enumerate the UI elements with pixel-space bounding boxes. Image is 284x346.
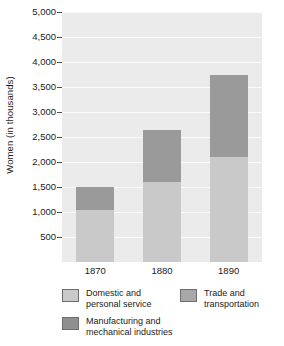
x-axis-tick-label: 1880 <box>132 265 192 277</box>
legend-item[interactable]: Domestic and personal service <box>62 288 152 309</box>
x-axis-tick-label: 1890 <box>199 265 259 277</box>
stacked-bar-chart: Women (in thousands) 5,0004,5004,0003,50… <box>0 0 284 346</box>
chart-legend: Domestic and personal serviceTrade and t… <box>62 288 280 344</box>
bar-1890[interactable] <box>210 75 248 263</box>
bar-segment[interactable] <box>143 130 181 183</box>
legend-label: Domestic and personal service <box>86 288 152 309</box>
y-axis-tick-label: 4,000 <box>18 57 56 67</box>
x-axis-tick-label: 1870 <box>65 265 125 277</box>
y-axis-tick-label: 1,000 <box>18 207 56 217</box>
bar-1880[interactable] <box>143 130 181 263</box>
y-axis-title: Women (in thousands) <box>0 0 18 250</box>
bar-segment[interactable] <box>76 187 114 210</box>
bar-segment[interactable] <box>143 182 181 262</box>
legend-swatch <box>180 289 197 302</box>
bars-layer <box>62 12 262 262</box>
y-axis-tick-label: 5,000 <box>18 7 56 17</box>
y-axis-tick-labels: 5,0004,5004,0003,5003,0002,5002,0001,500… <box>18 12 56 262</box>
legend-item[interactable]: Trade and transportation <box>180 288 259 309</box>
bar-1870[interactable] <box>76 187 114 262</box>
legend-swatch <box>62 317 79 330</box>
y-axis-tick-label: 2,500 <box>18 132 56 142</box>
plot-area <box>62 12 262 262</box>
legend-item[interactable]: Manufacturing and mechanical industries <box>62 316 173 337</box>
y-axis-tick-label: 4,500 <box>18 32 56 42</box>
y-axis-tick-label: 1,500 <box>18 182 56 192</box>
x-axis-tick-labels: 187018801890 <box>62 265 262 279</box>
y-axis-tick-label: 3,000 <box>18 107 56 117</box>
bar-segment[interactable] <box>210 75 248 158</box>
bar-segment[interactable] <box>76 210 114 263</box>
legend-label: Manufacturing and mechanical industries <box>86 316 173 337</box>
y-axis-tick-label: 2,000 <box>18 157 56 167</box>
legend-label: Trade and transportation <box>204 288 259 309</box>
bar-segment[interactable] <box>210 157 248 262</box>
legend-swatch <box>62 289 79 302</box>
y-axis-tick-label: 3,500 <box>18 82 56 92</box>
y-axis-tick-label: 500 <box>18 232 56 242</box>
